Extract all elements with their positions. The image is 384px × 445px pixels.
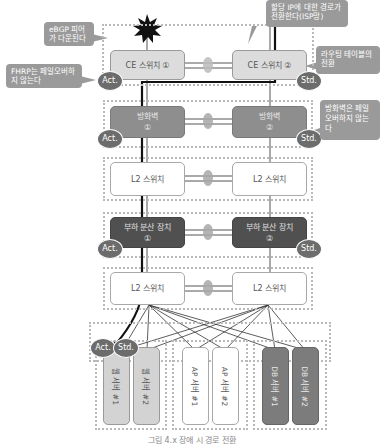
firewall-2-standby-badge: Std. [296,129,322,149]
ap-server-1-label: AP 서버 #1 [190,366,201,405]
l2-switch-upper-2[interactable]: L2 스위치 [232,162,307,196]
callout-fhrp-no-failover: FHRP는 페일오버하지 않는다 [6,64,82,88]
firewall-2[interactable]: 방화벽 ② [232,106,307,138]
server-nic-standby-badge: Std. [113,338,139,358]
l2-switch-upper-1[interactable]: L2 스위치 [110,162,185,196]
web-server-2[interactable]: 웹 서버 #2 [133,347,160,425]
ce-switch-2-label: CE 스위치 ② [248,60,292,71]
firewall-2-label: 방화벽 [259,111,280,122]
load-balancer-1-label: 부하 분산 장치 [124,222,171,233]
ce-switch-2[interactable]: CE 스위치 ② [232,50,307,80]
firewall-1-label: 방화벽 [137,111,158,122]
l2-switch-upper-1-label: L2 스위치 [131,174,164,185]
web-server-1[interactable]: 웹 서버 #1 [103,347,130,425]
db-server-2-label: DB 서버 #2 [300,366,311,407]
l2-switch-lower-2[interactable]: L2 스위치 [232,272,307,305]
ap-server-1[interactable]: AP 서버 #1 [182,347,209,425]
lb-2-standby-badge: Std. [296,239,322,259]
l2-switch-lower-1[interactable]: L2 스위치 [110,272,185,305]
callout-firewall-no-failover: 방화벽은 페일오버하지 않는다 [320,100,380,140]
load-balancer-2-number: ② [266,233,273,244]
web-server-2-label: 웹 서버 #2 [141,368,152,405]
callout-ebgp-down: eBGP 피어가 다운된다 [44,22,94,46]
ce-2-standby-badge: Std. [296,71,322,91]
firewall-1-active-badge: Act. [97,129,123,149]
l2-switch-upper-2-label: L2 스위치 [253,174,286,185]
l2-switch-lower-1-label: L2 스위치 [131,283,164,294]
callout-route-switch-isp: 할당 IP에 대한 경로가 전환한다(ISP망) [266,0,348,27]
lb-1-active-badge: Act. [97,239,123,259]
load-balancer-2-label: 부하 분산 장치 [246,222,293,233]
db-server-2[interactable]: DB 서버 #2 [292,347,319,425]
db-server-1-label: DB 서버 #1 [270,366,281,407]
web-server-1-label: 웹 서버 #1 [111,368,122,405]
db-server-1[interactable]: DB 서버 #1 [262,347,289,425]
callout-routing-table-switch: 라우팅 테이블의 전환 [316,46,380,74]
firewall-1-number: ① [144,122,151,133]
figure-caption: 그림 4.x 장애 시 경로 전환 [0,434,384,445]
ce-1-active-badge: Act. [97,71,123,91]
ce-switch-1-label: CE 스위치 ① [126,60,170,71]
firewall-2-number: ② [266,122,273,133]
load-balancer-2[interactable]: 부하 분산 장치 ② [232,217,307,248]
ap-server-2[interactable]: AP 서버 #2 [212,347,239,425]
load-balancer-1-number: ① [144,233,151,244]
l2-switch-lower-2-label: L2 스위치 [253,283,286,294]
ap-server-2-label: AP 서버 #2 [220,366,231,405]
